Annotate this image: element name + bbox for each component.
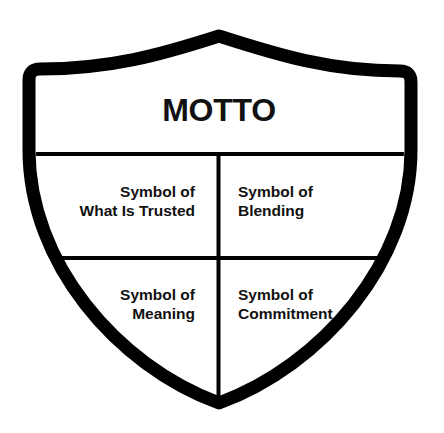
quadrant-label-line2: Commitment	[238, 305, 333, 322]
shield-diagram: MOTTO Symbol of What Is Trusted Symbol o…	[0, 0, 444, 433]
column-divider	[217, 154, 221, 414]
motto-label: MOTTO	[162, 92, 275, 128]
quadrant-label-line2: Blending	[238, 202, 304, 219]
motto-divider	[20, 152, 424, 156]
quadrant-label-line1: Symbol of	[120, 183, 196, 200]
quadrant-label-line1: Symbol of	[238, 183, 314, 200]
quadrant-label-line1: Symbol of	[238, 286, 314, 303]
quadrant-label-line2: What Is Trusted	[80, 202, 195, 219]
quadrant-label-line1: Symbol of	[120, 286, 196, 303]
row-divider	[20, 256, 424, 260]
quadrant-label-line2: Meaning	[132, 305, 195, 322]
